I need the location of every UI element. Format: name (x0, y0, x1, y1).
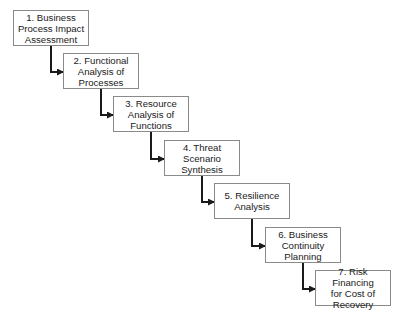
connector-arrow-6-to-7 (303, 263, 315, 289)
step-box-3: 3. Resource Analysis of Functions (113, 96, 189, 132)
step-box-4: 4. Threat Scenario Synthesis (164, 140, 240, 176)
step-label-3: 3. Resource Analysis of Functions (125, 98, 177, 131)
step-label-7: 7. Risk Financing for Cost of Recovery (318, 266, 388, 310)
connector-arrow-1-to-2 (51, 46, 63, 72)
step-box-6: 6. Business Continuity Planning (265, 227, 341, 263)
step-label-2: 2. Functional Analysis of Processes (74, 55, 129, 88)
step-box-2: 2. Functional Analysis of Processes (63, 53, 139, 89)
step-box-5: 5. Resilience Analysis (214, 183, 290, 219)
connector-arrow-5-to-6 (252, 219, 265, 246)
connector-arrow-3-to-4 (151, 132, 164, 159)
process-staircase-diagram: 1. Business Process Impact Assessment 2.… (0, 0, 407, 319)
step-box-7: 7. Risk Financing for Cost of Recovery (315, 270, 391, 306)
connector-arrow-2-to-3 (101, 89, 113, 115)
step-box-1: 1. Business Process Impact Assessment (13, 10, 89, 46)
step-label-4: 4. Threat Scenario Synthesis (181, 142, 223, 175)
step-label-6: 6. Business Continuity Planning (278, 229, 328, 262)
step-label-1: 1. Business Process Impact Assessment (18, 12, 84, 45)
connector-arrow-4-to-5 (202, 176, 214, 202)
step-label-5: 5. Resilience Analysis (225, 190, 280, 212)
